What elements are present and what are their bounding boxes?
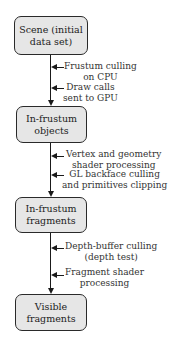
step-vertex-geometry-shader: Vertex and geometry shader processing bbox=[66, 149, 161, 170]
step-draw-calls: Draw calls sent to GPU bbox=[63, 82, 118, 103]
node-in-frustum-fragments: In-frustum fragments bbox=[15, 197, 87, 233]
node-scene: Scene (initial data set) bbox=[14, 16, 88, 55]
node-visible-fragments-line2: fragments bbox=[26, 313, 75, 325]
step-fragment-shader: Fragment shader processing bbox=[65, 267, 144, 288]
edge-fragments-to-visible-line bbox=[50, 233, 51, 288]
step-arrow-left-icon bbox=[51, 153, 64, 159]
step-frustum-culling: Frustum culling on CPU bbox=[64, 61, 137, 82]
edge-objects-to-fragments-line bbox=[50, 143, 51, 191]
step-depth-buffer-culling: Depth-buffer culling (depth test) bbox=[65, 241, 157, 262]
node-in-frustum-objects: In-frustum objects bbox=[16, 106, 87, 143]
node-in-frustum-fragments-line2: fragments bbox=[25, 215, 76, 227]
node-visible-fragments: Visible fragments bbox=[15, 294, 87, 331]
node-in-frustum-objects-line2: objects bbox=[26, 125, 77, 137]
node-in-frustum-fragments-line1: In-frustum bbox=[25, 203, 76, 215]
arrowhead-down-icon bbox=[48, 288, 54, 294]
node-scene-line2: data set) bbox=[19, 36, 83, 48]
arrowhead-down-icon bbox=[48, 191, 54, 197]
step-arrow-left-icon bbox=[51, 64, 64, 70]
step-arrow-left-icon bbox=[51, 272, 64, 278]
node-in-frustum-objects-line1: In-frustum bbox=[26, 113, 77, 125]
step-backface-culling-clipping: GL backface culling and primitives clipp… bbox=[62, 169, 167, 190]
step-arrow-left-icon bbox=[51, 245, 64, 251]
arrowhead-down-icon bbox=[48, 100, 54, 106]
edge-scene-to-objects-line bbox=[50, 55, 51, 100]
node-visible-fragments-line1: Visible bbox=[26, 301, 75, 313]
node-scene-line1: Scene (initial bbox=[19, 24, 83, 36]
